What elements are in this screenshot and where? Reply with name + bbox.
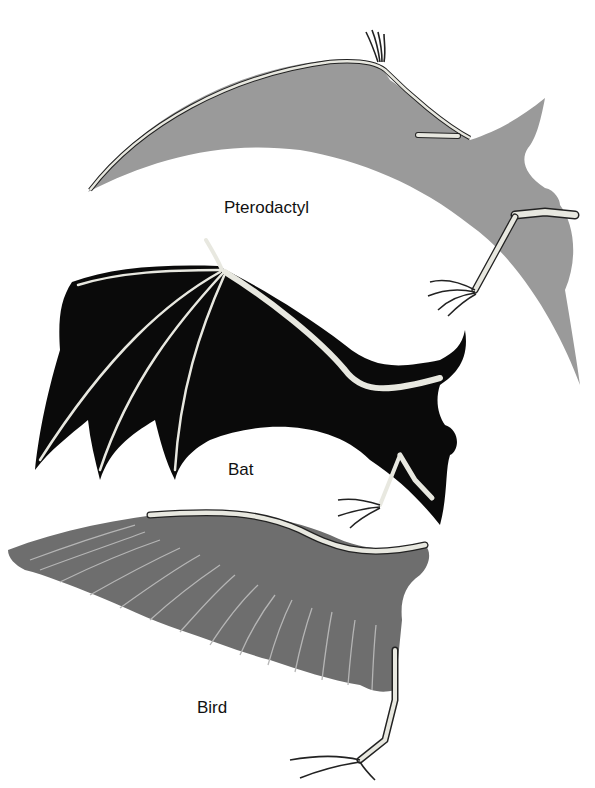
label-bird: Bird [197, 698, 227, 718]
bat-wing [35, 240, 466, 528]
label-pterodactyl: Pterodactyl [224, 198, 309, 218]
bird-feathers [8, 512, 429, 692]
bat-membrane [35, 266, 466, 525]
label-bat: Bat [228, 460, 254, 480]
wing-comparison-illustration [0, 0, 595, 788]
bird-wing [8, 512, 429, 780]
